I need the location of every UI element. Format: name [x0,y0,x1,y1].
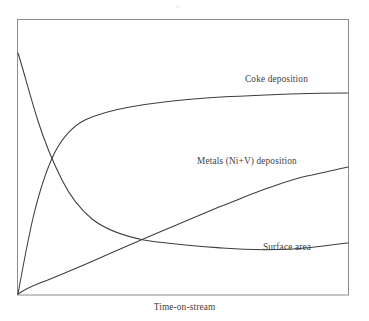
x-axis-label: Time-on-stream [0,303,369,312]
series-label-coke-deposition: Coke deposition [245,75,308,84]
chart-figure: Coke deposition Metals (Ni+V) deposition… [0,0,369,321]
plot-frame [18,20,349,296]
series-label-metals-deposition: Metals (Ni+V) deposition [197,157,297,166]
series-label-surface-area: Surface area [263,243,311,252]
plot-area [0,0,369,321]
